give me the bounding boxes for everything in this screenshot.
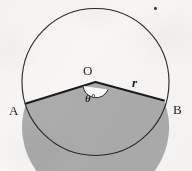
point-b-label: B — [173, 103, 182, 116]
radius-label: r — [132, 76, 137, 89]
center-point-label: O — [83, 64, 92, 77]
circle-sector-diagram — [0, 0, 192, 171]
angle-theta-label: θ° — [85, 93, 95, 104]
geometry-figure: O θ° r A B — [0, 0, 192, 171]
point-a-label: A — [9, 104, 18, 117]
